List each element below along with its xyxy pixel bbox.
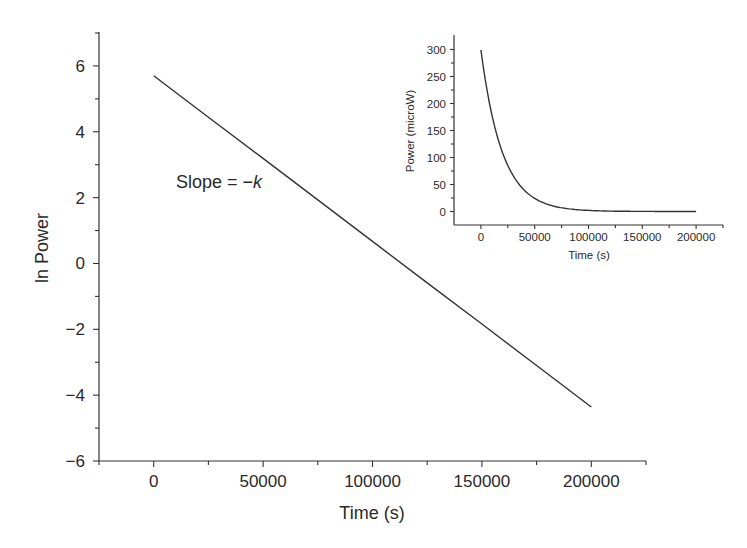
y-tick-label: 0 (76, 254, 85, 273)
y-tick-label: 300 (427, 44, 446, 56)
y-tick-label: 50 (433, 179, 446, 191)
main-y-axis-label: ln Power (32, 213, 52, 283)
slope-annotation-text: Slope = − (176, 172, 253, 192)
x-tick-label: 0 (478, 231, 484, 243)
y-tick-label: 100 (427, 152, 446, 164)
chart-canvas: −6−4−20246 050000100000150000200000 Time… (0, 0, 747, 548)
inset-y-axis-label: Power (microW) (404, 90, 416, 173)
main-y-ticks: −6−4−20246 (66, 33, 99, 471)
y-tick-label: 200 (427, 98, 446, 110)
x-tick-label: 50000 (239, 472, 286, 491)
x-tick-label: 150000 (623, 231, 661, 243)
y-tick-label: 2 (76, 189, 85, 208)
inset-x-axis-label: Time (s) (568, 249, 610, 261)
y-tick-label: 6 (76, 57, 85, 76)
slope-annotation-k: k (253, 172, 263, 192)
main-x-ticks: 050000100000150000200000 (99, 461, 646, 491)
y-tick-label: 250 (427, 71, 446, 83)
inset-plot: 050100150200250300 050000100000150000200… (404, 35, 723, 261)
x-tick-label: 100000 (344, 472, 401, 491)
slope-annotation: Slope = −k (176, 172, 263, 192)
x-tick-label: 100000 (569, 231, 607, 243)
inset-data-curve (481, 50, 696, 212)
x-tick-label: 0 (149, 472, 158, 491)
y-tick-label: −6 (66, 452, 85, 471)
inset-y-ticks: 050100150200250300 (427, 44, 454, 218)
inset-x-ticks: 050000100000150000200000 (478, 225, 723, 243)
main-x-axis-label: Time (s) (339, 503, 404, 523)
x-tick-label: 200000 (677, 231, 715, 243)
main-plot: −6−4−20246 050000100000150000200000 Time… (32, 32, 646, 523)
x-tick-label: 200000 (563, 472, 620, 491)
y-tick-label: 150 (427, 125, 446, 137)
y-tick-label: 0 (440, 206, 446, 218)
x-tick-label: 150000 (454, 472, 511, 491)
y-tick-label: −4 (66, 386, 85, 405)
y-tick-label: 4 (76, 123, 85, 142)
y-tick-label: −2 (66, 320, 85, 339)
x-tick-label: 50000 (519, 231, 551, 243)
